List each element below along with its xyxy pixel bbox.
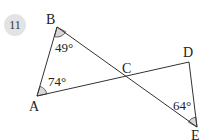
vertex-label-b: B [46,12,55,27]
segment-de [189,62,197,127]
angle-label-e: 64° [173,98,191,113]
vertex-label-e: E [191,128,200,140]
vertex-label-c: C [122,61,131,76]
geometry-figure: B A C D E 49° 74° 64° [0,0,209,140]
vertex-label-a: A [29,99,40,114]
angle-label-b: 49° [55,40,73,55]
diagram-canvas: 11 B A C D E 49° 74° 64° [0,0,209,140]
vertex-label-d: D [183,45,193,60]
angle-label-a: 74° [48,74,66,89]
